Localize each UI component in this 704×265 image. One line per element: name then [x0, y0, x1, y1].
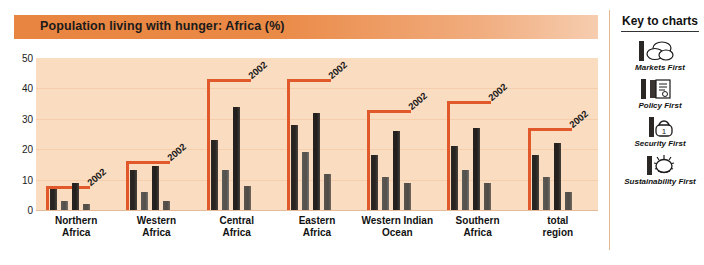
chart-panel: 01020304050 2002200220022002200220022002…	[14, 47, 598, 252]
page-title: Population living with hunger: Africa (%…	[40, 19, 285, 33]
key-item-label: Security First	[618, 139, 702, 149]
bar-group: 2002	[277, 58, 357, 210]
bar	[371, 155, 378, 210]
bars	[116, 58, 196, 210]
bar	[291, 125, 298, 210]
bars	[518, 58, 598, 210]
key-item-label: Policy First	[618, 101, 702, 111]
y-axis-tick-label: 10	[14, 174, 33, 185]
chart-title-bar: Population living with hunger: Africa (%…	[14, 15, 598, 39]
axis-baseline	[36, 210, 598, 211]
y-axis-tick-label: 40	[14, 83, 33, 94]
bar	[451, 146, 458, 210]
bar-group: 2002	[357, 58, 437, 210]
bar	[50, 189, 57, 210]
x-axis-label: Western IndianOcean	[357, 215, 437, 239]
chart-page: Population living with hunger: Africa (%…	[0, 0, 704, 265]
key-panel-rule	[621, 31, 699, 32]
bar	[543, 177, 550, 210]
key-divider	[609, 10, 610, 250]
bar	[244, 186, 251, 210]
bars	[197, 58, 277, 210]
bar-group: 2002	[36, 58, 116, 210]
key-item-label: Markets First	[618, 63, 702, 73]
key-panel: Key to charts Markets FirstPolicy First1…	[618, 14, 702, 214]
bar	[382, 177, 389, 210]
bar	[565, 192, 572, 210]
bar-group: 2002	[197, 58, 277, 210]
key-item-label: Sustainability First	[618, 177, 702, 187]
bar	[302, 152, 309, 210]
bar	[462, 170, 469, 210]
x-axis-label: CentralAfrica	[197, 215, 277, 239]
bar	[222, 170, 229, 210]
x-axis-label: SouthernAfrica	[437, 215, 517, 239]
bar-group: 2002	[437, 58, 517, 210]
bar	[393, 131, 400, 210]
bar	[141, 192, 148, 210]
bar	[72, 183, 79, 210]
key-item-sustainability-first: Sustainability First	[618, 154, 702, 187]
x-axis-label: totalregion	[518, 215, 598, 239]
x-axis-label: NorthernAfrica	[36, 215, 116, 239]
bar	[404, 183, 411, 210]
bar	[211, 140, 218, 210]
bar	[532, 155, 539, 210]
bar	[130, 170, 137, 210]
bar	[484, 183, 491, 210]
bar	[233, 107, 240, 210]
key-item-security-first: 1Security First	[618, 116, 702, 149]
bar	[324, 174, 331, 210]
bar	[61, 201, 68, 210]
x-axis-label: WesternAfrica	[116, 215, 196, 239]
x-axis-label: EasternAfrica	[277, 215, 357, 239]
key-item-policy-first: Policy First	[618, 78, 702, 111]
bar	[473, 128, 480, 210]
key-item-markets-first: Markets First	[618, 40, 702, 73]
bars	[277, 58, 357, 210]
y-axis-tick-label: 20	[14, 144, 33, 155]
svg-text:1: 1	[662, 127, 667, 136]
padlock-icon: 1	[618, 116, 702, 138]
y-axis-tick-label: 50	[14, 53, 33, 64]
bar-group: 2002	[116, 58, 196, 210]
bar	[152, 166, 159, 210]
bar	[313, 113, 320, 210]
document-icon	[618, 78, 702, 100]
coins-icon	[618, 40, 702, 62]
bars	[357, 58, 437, 210]
bar	[83, 204, 90, 210]
bars	[437, 58, 517, 210]
bar-group: 2002	[518, 58, 598, 210]
y-axis-tick-label: 0	[14, 205, 33, 216]
bars	[36, 58, 116, 210]
key-items-list: Markets FirstPolicy First1Security First…	[618, 40, 702, 187]
key-panel-heading: Key to charts	[618, 14, 702, 31]
bar	[554, 143, 561, 210]
bar	[163, 201, 170, 210]
sun-icon	[618, 154, 702, 176]
y-axis-tick-label: 30	[14, 113, 33, 124]
